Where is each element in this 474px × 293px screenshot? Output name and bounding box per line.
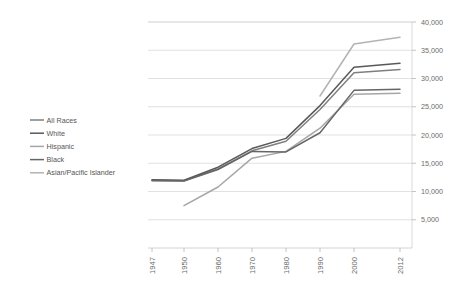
x-axis-tick-label: 2000 [350, 257, 359, 274]
x-axis-tick-label: 1970 [248, 257, 257, 274]
y-axis-tick-label: 35,000 [421, 46, 443, 55]
legend-item-label: Asian/Pacific Islander [47, 168, 116, 177]
y-axis-ticks [412, 22, 416, 220]
series-line [152, 69, 400, 180]
x-axis-tick-label: 1950 [180, 257, 189, 274]
x-axis-tick-label: 1947 [148, 257, 157, 274]
legend-item-label: All Races [47, 116, 78, 125]
chart-container: 5,00010,00015,00020,00025,00030,00035,00… [0, 0, 474, 293]
line-chart: 5,00010,00015,00020,00025,00030,00035,00… [0, 0, 474, 293]
y-axis-tick-label: 10,000 [421, 187, 443, 196]
x-axis-tick-label: 2012 [396, 257, 405, 274]
x-axis-tick-label: 1980 [282, 257, 291, 274]
y-axis-tick-label: 30,000 [421, 74, 443, 83]
x-axis-tick-label: 1990 [316, 257, 325, 274]
gridlines [148, 22, 412, 220]
legend-item-label: White [47, 129, 65, 138]
y-axis-tick-labels: 5,00010,00015,00020,00025,00030,00035,00… [421, 18, 443, 225]
x-axis-tick-label: 1960 [214, 257, 223, 274]
legend-item-label: Black [47, 155, 65, 164]
y-axis-tick-label: 5,000 [421, 215, 439, 224]
x-axis-tick-labels: 19471950196019701980199020002012 [148, 257, 405, 274]
chart-legend: All RacesWhiteHispanicBlackAsian/Pacific… [30, 116, 116, 178]
y-axis-tick-label: 15,000 [421, 159, 443, 168]
x-axis-ticks [152, 248, 400, 252]
y-axis-tick-label: 20,000 [421, 131, 443, 140]
y-axis-tick-label: 40,000 [421, 18, 443, 27]
legend-item-label: Hispanic [47, 142, 75, 151]
series-line [152, 63, 400, 180]
y-axis-tick-label: 25,000 [421, 102, 443, 111]
data-series-group [152, 37, 400, 205]
